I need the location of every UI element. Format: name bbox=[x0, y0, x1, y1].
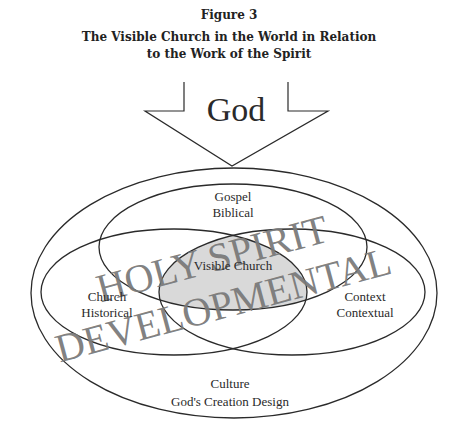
contextual-label: Contextual bbox=[336, 305, 393, 320]
creation-design-label: God's Creation Design bbox=[171, 394, 289, 409]
gospel-label: Gospel bbox=[215, 189, 252, 204]
culture-label: Culture bbox=[211, 376, 250, 391]
biblical-label: Biblical bbox=[212, 205, 254, 220]
venn-diagram: God HOLY SPIRIT DEVELOPMENTAL Gospel Bib… bbox=[0, 0, 458, 443]
church-label: Church bbox=[88, 289, 127, 304]
historical-label: Historical bbox=[81, 305, 133, 320]
context-label: Context bbox=[344, 289, 386, 304]
god-label: God bbox=[207, 91, 266, 128]
visible-church-label: Visible Church bbox=[194, 258, 273, 273]
